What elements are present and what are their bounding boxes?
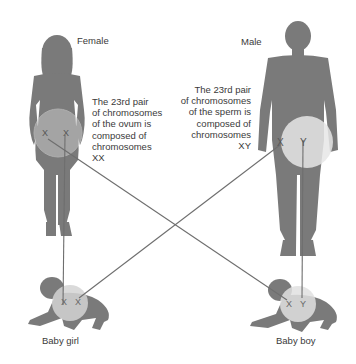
inheritance-lines — [48, 135, 303, 305]
male-chromosome-x: X — [277, 137, 284, 148]
female-desc-line: composed of — [92, 130, 162, 141]
female-label: Female — [77, 35, 109, 46]
female-desc-line: of the ovum is — [92, 118, 162, 129]
baby-girl-chromosome-2: X — [75, 297, 81, 308]
male-desc-line: XY — [176, 140, 251, 151]
baby-boy-chromosome-y: Y — [300, 299, 306, 310]
female-chromosome-1: X — [42, 128, 48, 139]
female-desc-line: chromosomes — [92, 141, 162, 152]
male-desc-line: composed of — [176, 118, 251, 129]
baby-girl-chromosome-1: X — [61, 297, 67, 308]
baby-girl-label: Baby girl — [42, 335, 79, 346]
male-description: The 23rd pair of chromosomes of the sper… — [176, 84, 251, 151]
male-desc-line: chromosomes — [176, 129, 251, 140]
male-label: Male — [241, 36, 262, 47]
female-desc-line: of chromosomes — [92, 107, 162, 118]
female-desc-line: The 23rd pair — [92, 96, 162, 107]
male-desc-line: of the sperm is — [176, 106, 251, 117]
female-description: The 23rd pair of chromosomes of the ovum… — [92, 96, 162, 163]
male-desc-line: of chromosomes — [176, 95, 251, 106]
female-desc-line: XX — [92, 152, 162, 163]
baby-boy-label: Baby boy — [276, 335, 316, 346]
male-chromosome-y: Y — [300, 137, 307, 148]
line-female-x-to-baby-boy-x — [48, 139, 287, 300]
male-desc-line: The 23rd pair — [176, 84, 251, 95]
female-chromosome-2: X — [63, 128, 69, 139]
male-highlight-circle — [281, 116, 333, 168]
baby-girl-highlight-circle — [52, 285, 88, 321]
baby-boy-chromosome-x: X — [286, 299, 292, 310]
